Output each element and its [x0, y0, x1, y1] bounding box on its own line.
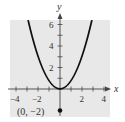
y-tick-label-6: 6	[49, 20, 54, 30]
x-tick-label-neg2: −2	[32, 94, 42, 104]
y-tick-label-4: 4	[49, 41, 54, 51]
x-tick-label-neg4: −4	[10, 94, 20, 104]
y-axis-label: y	[56, 1, 62, 12]
y-tick-label-2: 2	[49, 63, 54, 73]
parabola-chart: x y −4 −2 2 4 2 4 6 (0, −2)	[0, 0, 125, 122]
vertex-label: (0, −2)	[17, 106, 44, 118]
x-tick-label-2: 2	[80, 94, 85, 104]
vertex-point	[58, 108, 63, 113]
y-axis-arrow-icon	[58, 13, 63, 19]
x-tick-label-4: 4	[102, 94, 107, 104]
x-axis-label: x	[113, 83, 119, 94]
